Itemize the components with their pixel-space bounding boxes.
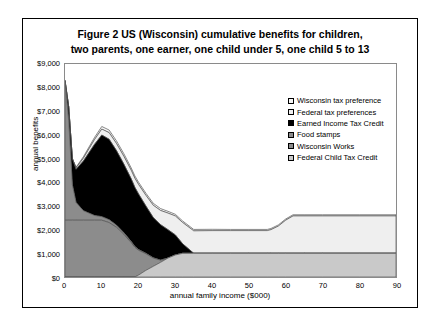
y-tick-label: $7,000	[37, 106, 60, 115]
y-tick-label: $5,000	[37, 154, 60, 163]
figure-frame: Figure 2 US (Wisconsin) cumulative benef…	[22, 18, 418, 308]
legend-swatch-light-gray	[288, 155, 294, 161]
x-tick-label: 20	[134, 281, 142, 290]
y-tick-label: $6,000	[37, 130, 60, 139]
x-tick-label: 50	[245, 281, 253, 290]
y-tick-label: $8,000	[37, 82, 60, 91]
legend-label: Federal tax preferences	[297, 108, 376, 117]
figure-title: Figure 2 US (Wisconsin) cumulative benef…	[23, 27, 417, 57]
legend-label: Wisconsin Works	[297, 142, 354, 151]
x-tick-label: 80	[356, 281, 364, 290]
legend-swatch-medium-gray	[288, 132, 294, 138]
x-axis-title: annual family income ($000)	[23, 291, 417, 300]
legend-item: Food stamps	[288, 129, 384, 140]
y-tick-label: $1,000	[37, 250, 60, 259]
legend-item: Wisconsin Works	[288, 141, 384, 152]
legend-label: Food stamps	[297, 130, 340, 139]
x-tick-label: 10	[97, 281, 105, 290]
x-tick-label: 0	[62, 281, 66, 290]
legend-swatch-medium-gray	[288, 143, 294, 149]
legend-label: Wisconsin tax preference	[297, 96, 381, 105]
y-tick-label: $9,000	[37, 59, 60, 68]
x-tick-label: 60	[282, 281, 290, 290]
legend-swatch-black	[288, 120, 294, 126]
x-tick-label: 90	[393, 281, 401, 290]
legend-item: Federal Child Tax Credit	[288, 152, 384, 163]
legend-swatch-white	[288, 109, 294, 115]
y-tick-label: $4,000	[37, 178, 60, 187]
y-tick-label: $3,000	[37, 202, 60, 211]
legend-item: Federal tax preferences	[288, 106, 384, 117]
x-tick-label: 30	[171, 281, 179, 290]
figure-title-line-1: Figure 2 US (Wisconsin) cumulative benef…	[23, 27, 417, 42]
chart-legend: Wisconsin tax preferenceFederal tax pref…	[288, 95, 384, 163]
legend-label: Earned Income Tax Credit	[297, 119, 384, 128]
x-tick-label: 40	[208, 281, 216, 290]
legend-label: Federal Child Tax Credit	[297, 153, 377, 162]
figure-title-line-2: two parents, one earner, one child under…	[23, 42, 417, 57]
y-tick-label: $0	[52, 274, 60, 283]
x-tick-label: 70	[319, 281, 327, 290]
legend-swatch-white	[288, 98, 294, 104]
y-tick-label: $2,000	[37, 226, 60, 235]
legend-item: Earned Income Tax Credit	[288, 118, 384, 129]
legend-item: Wisconsin tax preference	[288, 95, 384, 106]
